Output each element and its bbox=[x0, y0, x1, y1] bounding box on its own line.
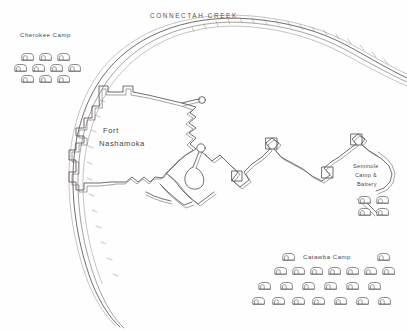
cherokee-camp-huts bbox=[15, 54, 81, 83]
map-root: CONNECTAH CREEK Fort Nashamoka bbox=[0, 0, 407, 331]
creek-label: CONNECTAH CREEK bbox=[150, 12, 238, 19]
fort-label-line2: Nashamoka bbox=[99, 139, 145, 148]
redoubt-north-icon bbox=[199, 97, 206, 104]
fort-label-line1: Fort bbox=[103, 126, 119, 135]
creek-label-group: CONNECTAH CREEK bbox=[150, 12, 238, 19]
catawba-camp-label: Catawba Camp bbox=[303, 253, 351, 260]
seminole-camp-label-line1: Seminole bbox=[353, 163, 379, 169]
redoubt-square-1 bbox=[232, 171, 242, 181]
seminole-camp-label-line2: Camp & bbox=[355, 172, 377, 178]
fort-label-group: Fort Nashamoka bbox=[99, 126, 145, 148]
siege-approach-trenches bbox=[146, 97, 378, 208]
seminole-camp-huts bbox=[359, 197, 389, 216]
cherokee-camp-label: Cherokee Camp bbox=[20, 31, 71, 38]
mortar-battery-icon bbox=[185, 144, 205, 189]
sketch-map-canvas: CONNECTAH CREEK Fort Nashamoka bbox=[0, 0, 407, 331]
catawba-camp-huts bbox=[253, 254, 395, 305]
seminole-camp-label-line3: Battery bbox=[357, 181, 377, 187]
